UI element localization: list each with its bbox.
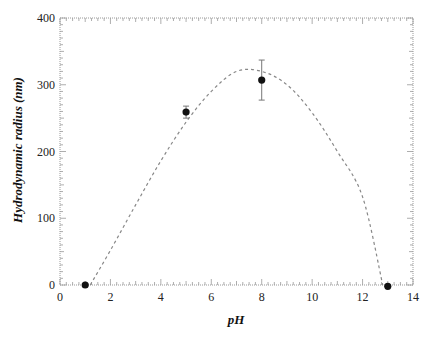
x-tick-label: 4 [158,290,164,304]
plot-frame [60,18,413,285]
x-tick-label: 0 [57,290,63,304]
chart: 02468101214 0100200300400 pH Hydrodynami… [0,0,436,340]
data-points [82,60,392,290]
data-point [384,283,391,290]
x-tick-label: 8 [259,290,265,304]
minor-ticks [60,18,413,285]
data-point [258,60,265,100]
y-tick-label: 400 [37,11,55,25]
y-tick-label: 100 [37,211,55,225]
data-point [82,281,89,288]
data-point [182,106,189,118]
x-tick-label: 12 [357,290,369,304]
x-tick-label: 2 [107,290,113,304]
x-tick-label: 10 [306,290,318,304]
y-tick-label: 200 [37,145,55,159]
y-tick-label: 0 [49,278,55,292]
fit-curve [90,69,382,285]
y-tick-labels: 0100200300400 [37,11,55,292]
x-tick-label: 6 [208,290,214,304]
x-tick-label: 14 [407,290,419,304]
y-tick-label: 300 [37,78,55,92]
x-tick-labels: 02468101214 [57,290,419,304]
x-axis-title: pH [227,312,246,327]
y-axis-title: Hydrodynamic radius (nm) [10,77,25,224]
